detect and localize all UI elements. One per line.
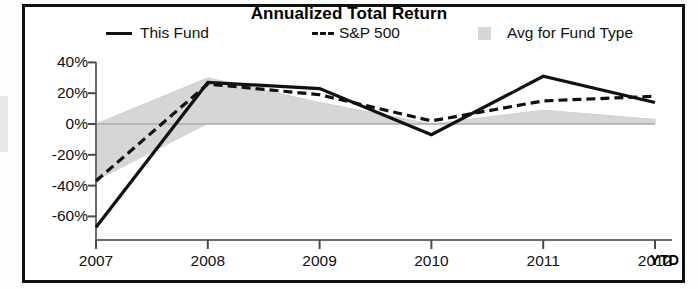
x-axis-tick-label: 2008: [191, 252, 225, 270]
legend-item-sp500: S&P 500: [312, 24, 400, 42]
dashed-line-swatch-icon: [312, 32, 334, 35]
ytd-annotation: YTD: [650, 252, 679, 268]
chart-title: Annualized Total Return: [0, 4, 698, 24]
x-axis-tick-label: 2007: [79, 252, 113, 270]
y-axis-tick-label: -40%: [30, 177, 88, 195]
legend-label-this-fund: This Fund: [140, 24, 209, 42]
legend-item-avg-fund-type: Avg for Fund Type: [478, 24, 633, 42]
chart-figure: Annualized Total Return This Fund S&P 50…: [0, 0, 698, 290]
y-axis-tick-label: 40%: [30, 53, 88, 71]
y-axis-tick-label: -60%: [30, 207, 88, 225]
legend-item-this-fund: This Fund: [106, 24, 209, 42]
x-axis-tick-label: 2010: [414, 252, 448, 270]
y-axis-tick-label: 20%: [30, 84, 88, 102]
x-axis-tick-label: 2009: [302, 252, 336, 270]
x-axis-tick-label: 2011: [527, 252, 560, 270]
area-swatch-icon: [478, 27, 491, 40]
chart-legend: This Fund S&P 500 Avg for Fund Type: [0, 24, 698, 46]
page-edge-artifact: [0, 96, 8, 152]
solid-line-swatch-icon: [106, 32, 132, 35]
legend-label-avg-fund-type: Avg for Fund Type: [507, 24, 633, 42]
legend-label-sp500: S&P 500: [339, 24, 400, 42]
y-axis-tick-label: -20%: [30, 146, 88, 164]
y-axis-tick-label: 0%: [30, 115, 88, 133]
